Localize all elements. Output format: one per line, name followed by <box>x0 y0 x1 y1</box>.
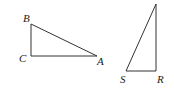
vertex-label-b: B <box>23 12 30 24</box>
triangle-sr-shape <box>126 4 156 71</box>
triangle-abc <box>31 24 97 56</box>
diagram-canvas: B C A S R <box>0 0 174 90</box>
vertex-label-c: C <box>19 52 27 64</box>
vertex-label-r: R <box>156 73 164 85</box>
vertex-label-s: S <box>120 73 126 85</box>
vertex-label-a: A <box>96 55 104 67</box>
triangle-abc-shape <box>31 24 97 56</box>
triangle-sr <box>126 4 156 71</box>
